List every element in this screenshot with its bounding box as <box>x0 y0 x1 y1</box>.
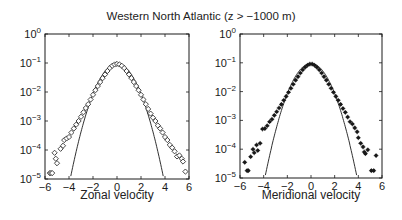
y-tick-label: 10−1 <box>20 55 42 69</box>
gaussian-fit-line <box>71 64 163 177</box>
data-point-diamond <box>52 150 57 155</box>
meridional-velocity-xlabel: Meridional velocity <box>236 188 386 202</box>
figure-canvas: −6−4−2024610010−110−210−310−410−5 −6−4−2… <box>0 0 402 220</box>
data-point-diamond <box>183 169 188 174</box>
y-tick-label: 10−1 <box>215 55 237 69</box>
y-tick-label: 10−2 <box>20 84 42 98</box>
data-point-diamond <box>88 97 93 102</box>
y-tick-label: 10−2 <box>215 84 237 98</box>
y-tick-label: 10−4 <box>215 141 237 155</box>
data-point-diamond <box>53 156 58 161</box>
y-tick-label: 10−3 <box>215 112 237 126</box>
y-tick-label: 10−4 <box>20 142 42 156</box>
data-point-diamond <box>138 92 143 97</box>
data-point-diamond <box>146 106 151 111</box>
zonal-velocity-plot: −6−4−2024610010−110−210−310−410−5 <box>20 26 192 193</box>
y-tick-label: 10−3 <box>20 113 42 127</box>
meridional-velocity-plot: −6−4−2024610010−110−210−310−410−5 <box>215 26 385 192</box>
y-tick-label: 100 <box>219 26 236 40</box>
data-point-diamond <box>54 161 59 166</box>
plot-frame <box>45 34 189 179</box>
data-point-diamond <box>90 92 95 97</box>
data-point-diamond <box>141 97 146 102</box>
zonal-velocity-xlabel: Zonal velocity <box>42 188 192 202</box>
plot-frame <box>240 34 382 178</box>
y-tick-label: 100 <box>24 26 41 40</box>
gaussian-fit-line <box>265 63 356 175</box>
